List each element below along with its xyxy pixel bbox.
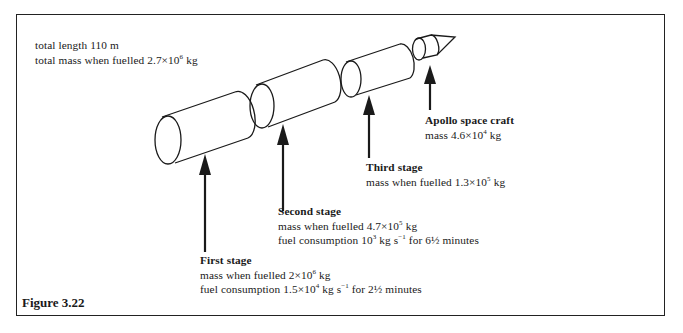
first-stage-fuel: fuel consumption 1.5×104 kg s−1 for 2½ m…	[200, 282, 422, 297]
second-stage-title: Second stage	[278, 205, 341, 217]
figure-caption: Figure 3.22	[22, 295, 85, 311]
apollo-arrow	[424, 65, 436, 110]
third-stage-cylinder	[341, 44, 414, 97]
total-length: total length 110 m	[35, 38, 198, 53]
apollo-title: Apollo space craft	[425, 114, 514, 126]
first-stage-label: First stage mass when fuelled 2×106 kg f…	[200, 253, 422, 297]
apollo-label: Apollo space craft mass 4.6×104 kg	[425, 113, 514, 142]
third-stage-mass: mass when fuelled 1.3×105 kg	[366, 175, 505, 190]
total-mass: total mass when fuelled 2.7×106 kg	[35, 53, 198, 68]
apollo-mass: mass 4.6×104 kg	[425, 128, 514, 143]
first-stage-cylinder	[155, 91, 255, 164]
second-stage-fuel: fuel consumption 103 kg s−1 for 6½ minut…	[278, 233, 479, 248]
third-stage-label: Third stage mass when fuelled 1.3×105 kg	[366, 160, 505, 189]
second-stage-cylinder	[250, 60, 341, 128]
first-stage-title: First stage	[200, 254, 252, 266]
second-stage-arrow	[277, 124, 289, 211]
apollo-spacecraft-shape	[413, 35, 456, 60]
third-stage-title: Third stage	[366, 161, 423, 173]
first-stage-mass: mass when fuelled 2×106 kg	[200, 268, 422, 283]
third-stage-arrow	[363, 95, 375, 158]
second-stage-mass: mass when fuelled 4.7×105 kg	[278, 219, 479, 234]
first-stage-arrow	[199, 154, 211, 252]
second-stage-label: Second stage mass when fuelled 4.7×105 k…	[278, 204, 479, 248]
overall-specs: total length 110 m total mass when fuell…	[35, 38, 198, 67]
